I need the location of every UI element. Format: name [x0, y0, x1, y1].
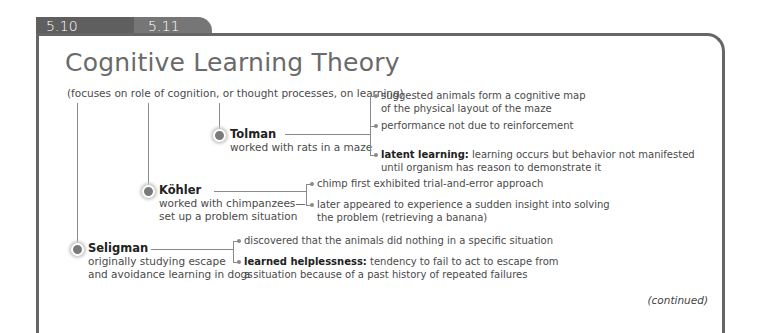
kohler-point-2-line-1: later appeared to experience a sudden in… — [317, 198, 610, 211]
bullet-icon — [310, 182, 314, 186]
kohler-point-2: later appeared to experience a sudden in… — [317, 198, 610, 224]
seligman-point-2-line-1: learned helplessness: tendency to fail t… — [244, 255, 559, 268]
bullet-icon — [237, 239, 241, 243]
tolman-connector — [285, 134, 370, 135]
kohler-point-2-line-2: the problem (retrieving a banana) — [317, 211, 610, 224]
seligman-description: originally studying escape and avoidance… — [88, 255, 253, 281]
kohler-name: Köhler — [159, 183, 201, 197]
kohler-trunk-line — [148, 103, 149, 186]
tolman-point-2: performance not due to reinforcement — [381, 119, 574, 132]
seligman-point-2-line-2: a situation because of a past history of… — [244, 268, 559, 281]
kohler-description-line-1: worked with chimpanzees— — [159, 197, 306, 210]
tolman-point-1: suggested animals form a cognitive map o… — [381, 89, 586, 115]
seligman-name: Seligman — [88, 241, 148, 255]
continued-note: (continued) — [647, 294, 708, 306]
tolman-point-3-text-1: learning occurs but behavior not manifes… — [469, 149, 695, 160]
seligman-point-2: learned helplessness: tendency to fail t… — [244, 255, 559, 281]
seligman-description-line-2: and avoidance learning in dogs — [88, 268, 253, 281]
bullet-icon — [374, 124, 378, 128]
tolman-point-1-line-2: of the physical layout of the maze — [381, 102, 586, 115]
seligman-connector — [151, 249, 233, 250]
kohler-node-icon — [142, 185, 155, 198]
bullet-icon — [374, 94, 378, 98]
term-latent-learning: latent learning: — [381, 149, 469, 160]
kohler-description: worked with chimpanzees— set up a proble… — [159, 197, 306, 223]
kohler-description-line-2: set up a problem situation — [159, 210, 306, 223]
page-subtitle: (focuses on role of cognition, or though… — [67, 87, 404, 99]
tolman-node-icon — [213, 129, 226, 142]
kohler-point-1: chimp first exhibited trial-and-error ap… — [317, 177, 543, 190]
seligman-point-2-text-1: tendency to fail to act to escape from — [367, 256, 559, 267]
term-learned-helplessness: learned helplessness: — [244, 256, 367, 267]
tolman-description: worked with rats in a maze — [230, 141, 372, 154]
seligman-point-1: discovered that the animals did nothing … — [244, 234, 553, 247]
seligman-trunk-line — [77, 103, 78, 245]
tolman-point-3-line-1: latent learning: learning occurs but beh… — [381, 148, 695, 161]
tab-5-10-label: 5.10 — [46, 18, 78, 34]
seligman-description-line-1: originally studying escape — [88, 255, 253, 268]
tolman-point-1-line-1: suggested animals form a cognitive map — [381, 89, 586, 102]
tolman-point-3: latent learning: learning occurs but beh… — [381, 148, 695, 174]
tab-5-11-label: 5.11 — [148, 18, 180, 34]
tolman-point-3-line-2: until organism has reason to demonstrate… — [381, 161, 695, 174]
tolman-trunk-line — [219, 103, 220, 130]
bullet-icon — [310, 203, 314, 207]
kohler-connector — [214, 191, 306, 192]
bullet-icon — [237, 260, 241, 264]
seligman-node-icon — [71, 243, 84, 256]
kohler-bracket — [306, 184, 307, 206]
bullet-icon — [374, 153, 378, 157]
seligman-bracket — [233, 241, 234, 263]
tolman-name: Tolman — [230, 127, 276, 141]
page-title: Cognitive Learning Theory — [65, 48, 400, 77]
